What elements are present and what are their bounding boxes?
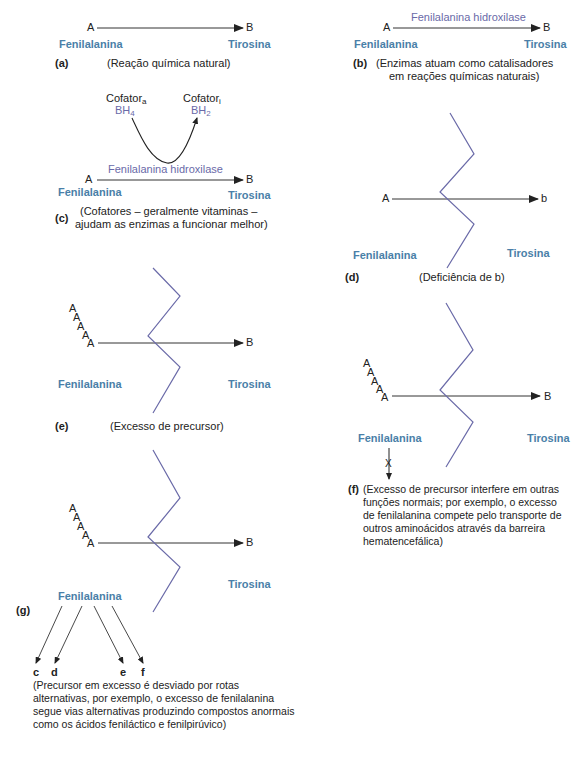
bh2-label: BH2 [191, 104, 211, 117]
panel-caption: (Deficiência de b) [419, 271, 505, 284]
branch-arrow-f [112, 606, 143, 663]
block-zigzag-f [440, 303, 473, 467]
branch-label-d: d [51, 666, 58, 679]
panel-caption-line2: em reações químicas naturais) [389, 70, 539, 83]
product-name: Tirosina [507, 247, 550, 260]
substrate-a: A [87, 21, 94, 34]
panel-caption: (Precursor em excesso é desviado por rot… [33, 679, 298, 731]
block-zigzag-g [148, 450, 180, 612]
branch-label-c: c [33, 666, 39, 679]
substrate-a: A [85, 173, 92, 186]
substrate-name: Fenilalanina [58, 378, 122, 391]
panel-caption: (Excesso de precursor) [110, 420, 224, 433]
product-b-deficient: b [541, 192, 547, 205]
block-zigzag-d [440, 113, 474, 268]
enzyme-label: Fenilalanina hidroxilase [108, 163, 223, 176]
substrate-name: Fenilalanina [59, 38, 123, 51]
product-b: B [246, 336, 253, 349]
panel-tag: (b) [353, 57, 367, 70]
branch-label-f: f [141, 666, 145, 679]
panel-tag: (f) [348, 483, 359, 496]
substrate-a: A [382, 192, 389, 205]
product-name: Tirosina [228, 578, 271, 591]
product-b: B [246, 536, 253, 549]
panel-tag: (c) [55, 212, 68, 225]
substrate-name: Fenilalanina [58, 186, 122, 199]
panel-tag: (d) [345, 271, 359, 284]
blocked-x-mark: X [385, 457, 392, 470]
panel-caption-line1: (Enzimas atuam como catalisadores [376, 57, 553, 70]
product-name: Tirosina [228, 189, 271, 202]
panel-caption-line2: ajudam as enzimas a funcionar melhor) [75, 218, 268, 231]
substrate-name: Fenilalanina [358, 432, 422, 445]
bh4-label: BH4 [115, 104, 135, 117]
branch-arrow-e [94, 606, 123, 663]
block-zigzag-e [148, 268, 180, 413]
branch-label-e: e [120, 666, 126, 679]
panel-tag: (a) [55, 57, 68, 70]
product-b: B [544, 390, 551, 403]
branch-arrow-c [36, 606, 62, 663]
substrate-a: A [383, 21, 390, 34]
product-name: Tirosina [228, 38, 271, 51]
substrate-a-stack-5: A [87, 337, 94, 350]
panel-caption: (Excesso de precursor interfere em outra… [363, 483, 571, 548]
substrate-name: Fenilalanina [353, 249, 417, 262]
panel-caption: (Reação química natural) [107, 57, 231, 70]
substrate-name: Fenilalanina [354, 38, 418, 51]
substrate-a-stack-5: A [87, 537, 94, 550]
cofactor-curve-arrow [132, 118, 197, 163]
product-name: Tirosina [527, 432, 570, 445]
product-b: B [543, 21, 550, 34]
branch-arrow-d [55, 606, 82, 663]
product-name: Tirosina [524, 38, 567, 51]
substrate-a-stack-5: A [381, 391, 388, 404]
substrate-name: Fenilalanina [58, 590, 122, 603]
enzyme-label: Fenilalanina hidroxilase [411, 11, 526, 24]
product-b: B [246, 21, 253, 34]
panel-tag: (g) [16, 604, 30, 617]
panel-caption-line1: (Cofatores – geralmente vitaminas – [80, 205, 257, 218]
product-b: B [246, 173, 253, 186]
product-name: Tirosina [228, 378, 271, 391]
panel-tag: (e) [55, 420, 68, 433]
